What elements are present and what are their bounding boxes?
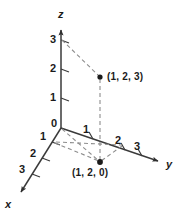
- coordinate-system-figure: z y x 0 3 2 1 1 2 3 1 2 3 (1, 2, 3) (1, …: [0, 0, 178, 215]
- x-tick-mark-2: [42, 158, 50, 161]
- z-axis-label: z: [58, 9, 64, 20]
- y-axis-label: y: [166, 159, 172, 170]
- x-tick-label-1: 1: [40, 131, 46, 142]
- y-tick-label-1: 1: [83, 124, 89, 135]
- y-axis-line: [61, 128, 158, 161]
- point-marker-120: [97, 159, 103, 165]
- guide-origin-to-point120: [62, 129, 99, 161]
- x-axis-label: x: [5, 199, 11, 210]
- x-tick-mark-3: [32, 174, 40, 177]
- y-tick-label-2: 2: [115, 135, 121, 146]
- z-tick-label-3: 3: [50, 34, 56, 45]
- z-tick-label-2: 2: [50, 63, 56, 74]
- guide-z3-to-point-123: [62, 40, 99, 76]
- z-tick-mark-2: [61, 69, 69, 72]
- point-label-123: (1, 2, 3): [107, 72, 143, 82]
- x-tick-label-2: 2: [30, 148, 36, 159]
- z-tick-label-1: 1: [50, 92, 56, 103]
- guide-x1-to-point120: [55, 143, 99, 161]
- guide-x1-to-y2: [56, 142, 122, 145]
- axes-drawing: [0, 0, 178, 215]
- z-tick-mark-1: [61, 98, 69, 101]
- guide-y2-to-point120: [101, 146, 122, 161]
- point-label-120: (1, 2, 0): [72, 168, 108, 178]
- origin-tick-label: 0: [51, 118, 57, 129]
- y-tick-label-3: 3: [134, 141, 140, 152]
- x-tick-label-3: 3: [19, 164, 25, 175]
- point-marker-123: [97, 74, 102, 79]
